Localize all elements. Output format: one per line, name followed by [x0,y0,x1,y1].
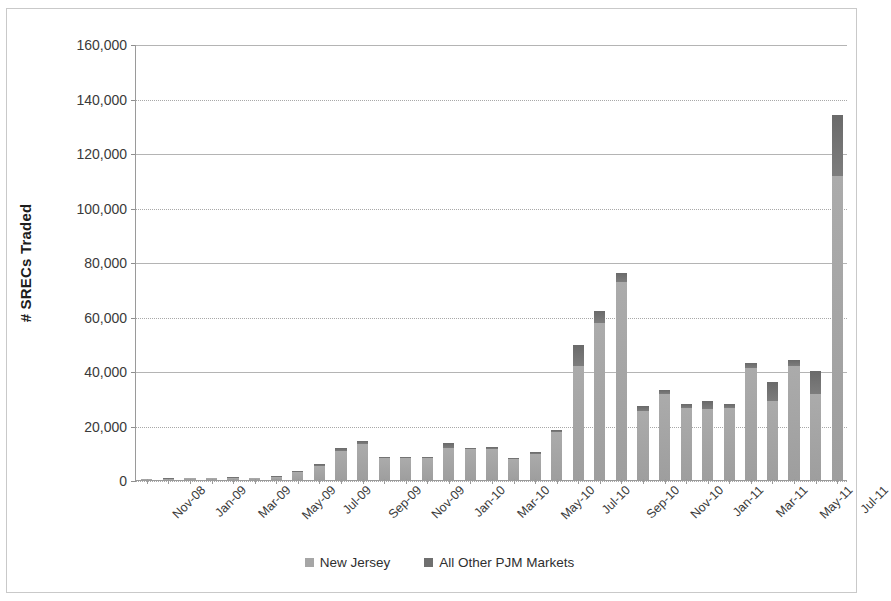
bar-segment-new-jersey[interactable] [616,282,627,480]
stacked-bar[interactable] [422,457,433,480]
bar-slot[interactable] [416,45,438,480]
bar-slot[interactable] [287,45,309,480]
bar-segment-new-jersey[interactable] [810,394,821,480]
bar-segment-new-jersey[interactable] [422,458,433,480]
stacked-bar[interactable] [637,406,648,480]
legend-label: All Other PJM Markets [439,555,574,570]
bar-slot[interactable] [654,45,676,480]
bar-slot[interactable] [460,45,482,480]
stacked-bar[interactable] [659,390,670,480]
legend-entry[interactable]: New Jersey [305,555,391,570]
bar-slot[interactable] [675,45,697,480]
bar-segment-new-jersey[interactable] [702,409,713,480]
bar-slot[interactable] [568,45,590,480]
stacked-bar[interactable] [443,443,454,480]
bar-slot[interactable] [481,45,503,480]
stacked-bar[interactable] [486,447,497,481]
bar-slot[interactable] [136,45,158,480]
stacked-bar[interactable] [314,464,325,480]
bar-segment-all-other-pjm-markets[interactable] [573,345,584,365]
x-axis-tick-label: Jul-10 [599,483,633,517]
bar-slot[interactable] [589,45,611,480]
bar-segment-all-other-pjm-markets[interactable] [616,273,627,283]
bar-segment-new-jersey[interactable] [508,459,519,480]
bar-slot[interactable] [330,45,352,480]
stacked-bar[interactable] [594,311,605,480]
legend-entry[interactable]: All Other PJM Markets [424,555,574,570]
bar-slot[interactable] [309,45,331,480]
bar-segment-all-other-pjm-markets[interactable] [767,382,778,401]
bar-segment-new-jersey[interactable] [379,458,390,480]
bar-segment-new-jersey[interactable] [767,401,778,480]
bar-segment-all-other-pjm-markets[interactable] [594,311,605,323]
stacked-bar[interactable] [465,448,476,480]
x-axis-tick-label: Mar-11 [773,483,810,520]
bar-slot[interactable] [632,45,654,480]
bar-slot[interactable] [265,45,287,480]
stacked-bar[interactable] [832,115,843,480]
stacked-bar[interactable] [616,273,627,480]
bar-segment-all-other-pjm-markets[interactable] [702,401,713,409]
bar-slot[interactable] [503,45,525,480]
bar-slot[interactable] [352,45,374,480]
bar-segment-new-jersey[interactable] [486,449,497,480]
bar-slot[interactable] [762,45,784,480]
stacked-bar[interactable] [810,371,821,480]
bar-segment-new-jersey[interactable] [745,368,756,480]
bar-slot[interactable] [740,45,762,480]
stacked-bar[interactable] [400,457,411,480]
bar-segment-new-jersey[interactable] [357,444,368,480]
bar-slot[interactable] [826,45,848,480]
y-axis-tick-label: 160,000 [7,37,127,53]
bar-segment-all-other-pjm-markets[interactable] [832,115,843,176]
stacked-bar[interactable] [379,457,390,480]
bar-series-group [136,45,847,480]
bar-slot[interactable] [524,45,546,480]
bar-slot[interactable] [179,45,201,480]
stacked-bar[interactable] [745,363,756,480]
bar-segment-new-jersey[interactable] [659,394,670,480]
bar-segment-new-jersey[interactable] [335,451,346,480]
bar-segment-new-jersey[interactable] [443,448,454,480]
stacked-bar[interactable] [573,345,584,480]
bar-segment-new-jersey[interactable] [788,366,799,480]
stacked-bar[interactable] [681,404,692,480]
bar-segment-new-jersey[interactable] [637,411,648,480]
bar-segment-new-jersey[interactable] [314,466,325,480]
x-axis-tick-label: Jul-11 [858,483,891,516]
bar-segment-new-jersey[interactable] [724,408,735,480]
x-axis-tick-label: Sep-09 [385,483,423,521]
bar-slot[interactable] [158,45,180,480]
bar-slot[interactable] [719,45,741,480]
bar-slot[interactable] [395,45,417,480]
bar-slot[interactable] [783,45,805,480]
bar-slot[interactable] [222,45,244,480]
stacked-bar[interactable] [724,404,735,480]
chart-legend: New JerseyAll Other PJM Markets [7,555,872,570]
stacked-bar[interactable] [788,360,799,480]
bar-slot[interactable] [805,45,827,480]
bar-segment-new-jersey[interactable] [465,449,476,480]
bar-segment-new-jersey[interactable] [400,458,411,480]
stacked-bar[interactable] [357,441,368,480]
bar-slot[interactable] [244,45,266,480]
stacked-bar[interactable] [530,452,541,480]
bar-slot[interactable] [611,45,633,480]
bar-segment-new-jersey[interactable] [530,454,541,480]
stacked-bar[interactable] [335,448,346,480]
stacked-bar[interactable] [551,430,562,480]
stacked-bar[interactable] [508,458,519,480]
bar-segment-new-jersey[interactable] [594,323,605,480]
bar-slot[interactable] [697,45,719,480]
bar-slot[interactable] [546,45,568,480]
stacked-bar[interactable] [702,401,713,480]
bar-segment-new-jersey[interactable] [573,366,584,480]
stacked-bar[interactable] [767,382,778,480]
bar-segment-new-jersey[interactable] [832,176,843,480]
bar-slot[interactable] [201,45,223,480]
bar-slot[interactable] [373,45,395,480]
bar-segment-all-other-pjm-markets[interactable] [810,371,821,394]
bar-slot[interactable] [438,45,460,480]
bar-segment-new-jersey[interactable] [681,408,692,480]
bar-segment-new-jersey[interactable] [551,432,562,480]
